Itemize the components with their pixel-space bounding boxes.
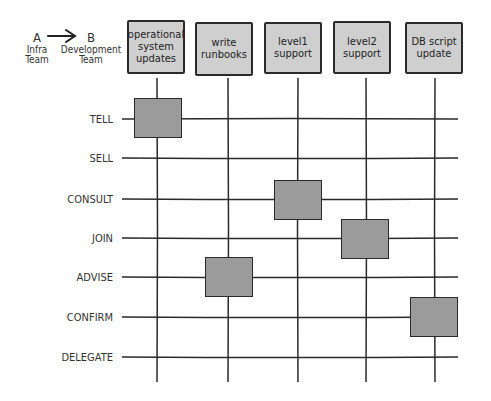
- column-header-operational-system-updates: operational system updates: [127, 20, 185, 74]
- row-label-confirm: CONFIRM: [67, 311, 113, 324]
- row-label-consult: CONSULT: [67, 193, 113, 206]
- assignment-cell-db-confirm: [410, 297, 458, 337]
- column-header-db-script-update: DB script update: [405, 22, 463, 74]
- assignment-cell-runbooks-advise: [205, 257, 253, 297]
- column-header-write-runbooks: write runbooks: [195, 22, 253, 76]
- assignment-cell-operational-tell: [134, 98, 182, 138]
- column-header-level2-support: level2 support: [333, 21, 391, 74]
- row-label-advise: ADVISE: [77, 271, 113, 284]
- row-label-delegate: DELEGATE: [61, 351, 113, 364]
- row-label-join: JOIN: [92, 232, 113, 245]
- row-label-sell: SELL: [89, 152, 113, 165]
- assignment-cell-level1-consult: [274, 180, 322, 220]
- column-header-level1-support: level1 support: [264, 22, 322, 74]
- assignment-cell-level2-join: [341, 219, 389, 259]
- row-label-tell: TELL: [90, 113, 113, 126]
